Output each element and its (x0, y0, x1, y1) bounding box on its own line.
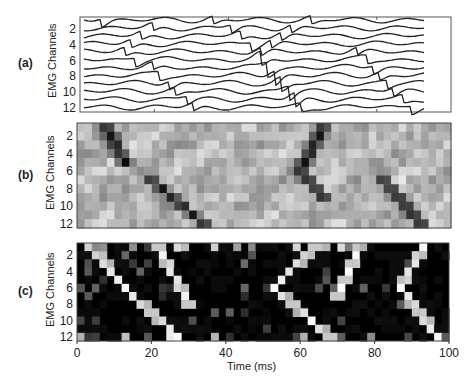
panel-c-activation-heatmap (77, 243, 450, 344)
panel-a-emg-traces (80, 16, 451, 115)
panel-b-gray-heatmap (77, 123, 452, 229)
figure-canvas (0, 0, 465, 382)
